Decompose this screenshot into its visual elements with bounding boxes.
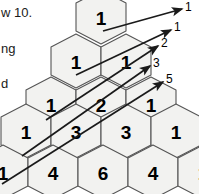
hex-value-r4c3: 4 bbox=[148, 163, 159, 184]
arrow-label-a2: 1 bbox=[174, 20, 181, 34]
hex-value-r0c0: 1 bbox=[96, 8, 107, 29]
note-row10: w 10. bbox=[0, 5, 32, 20]
note-d: d bbox=[1, 76, 8, 91]
hex-value-r4c1: 4 bbox=[48, 163, 59, 184]
hex-value-r4c4: 1 bbox=[198, 163, 199, 184]
arrow-label-a5: 5 bbox=[166, 72, 173, 86]
hex-value-r3c2: 3 bbox=[121, 122, 132, 143]
arrow-label-a1: 1 bbox=[185, 0, 192, 14]
pascal-triangle-figure: 111121133114641 11235 w 10.ngd bbox=[0, 0, 199, 194]
hex-value-r3c0: 1 bbox=[21, 122, 32, 143]
arrow-label-a3: 2 bbox=[161, 36, 168, 50]
note-ng: ng bbox=[1, 41, 15, 56]
hex-value-r2c0: 1 bbox=[46, 95, 57, 116]
hex-value-r1c0: 1 bbox=[71, 52, 82, 73]
hex-value-r3c3: 1 bbox=[171, 122, 182, 143]
pascal-hexagon-diagram: 111121133114641 11235 w 10.ngd bbox=[0, 0, 199, 194]
arrow-label-a4: 3 bbox=[153, 56, 160, 70]
hexagon-layer: 111121133114641 bbox=[0, 0, 199, 194]
hex-cell-r1c0: 1 bbox=[51, 34, 101, 88]
hex-value-r4c2: 6 bbox=[98, 163, 109, 184]
side-note-layer: w 10.ngd bbox=[0, 5, 32, 91]
hex-value-r2c2: 1 bbox=[146, 95, 157, 116]
